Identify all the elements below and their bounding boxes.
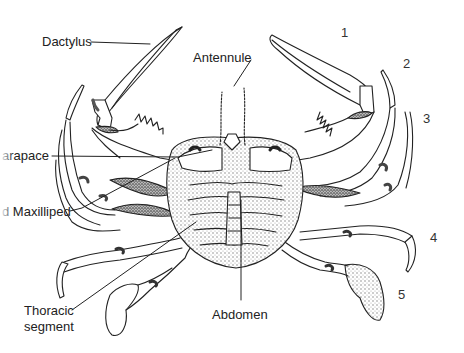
label-dactylus: Dactylus (42, 34, 92, 49)
label-thoracic-segment-line2: segment (24, 319, 74, 334)
carapace-body (167, 88, 303, 268)
leg-number-5: 5 (398, 287, 405, 302)
leg-number-1: 1 (341, 25, 348, 40)
crab-diagram: Dactylus Antennule arapace d Maxilliped … (0, 0, 464, 353)
leg-number-4: 4 (430, 230, 437, 245)
leg-number-3: 3 (423, 111, 430, 126)
dactylus-leader (91, 42, 150, 44)
label-antennule: Antennule (193, 50, 252, 65)
label-thoracic-segment-line1: Thoracic (24, 303, 74, 318)
leg-number-2: 2 (403, 56, 410, 71)
label-fade (0, 148, 14, 164)
right-cheliped (270, 35, 374, 160)
left-cheliped (92, 27, 182, 160)
label-abdomen: Abdomen (212, 307, 268, 322)
label-fade (0, 204, 14, 220)
